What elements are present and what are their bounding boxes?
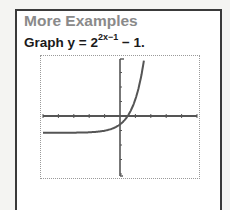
graph-canvas — [0, 0, 230, 210]
function-curve — [43, 61, 144, 133]
